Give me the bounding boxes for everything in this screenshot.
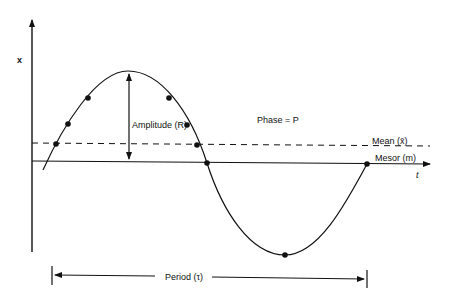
cosinor-diagram: x t Amplitude (R) Phase = P Mean (x̄) Me… xyxy=(0,0,454,305)
period-label: Period (τ) xyxy=(165,272,203,282)
data-point xyxy=(53,141,59,147)
mean-label: Mean (x̄) xyxy=(372,136,408,146)
phase-label: Phase = P xyxy=(257,115,299,125)
data-point xyxy=(194,142,200,148)
y-axis-label: x xyxy=(17,55,22,65)
data-point xyxy=(85,95,91,101)
mean-line xyxy=(32,143,430,146)
data-point xyxy=(65,121,71,127)
amplitude-label: Amplitude (R) xyxy=(132,120,187,130)
data-point xyxy=(282,252,288,258)
data-point xyxy=(364,161,370,167)
x-axis-label: t xyxy=(416,170,419,180)
data-point xyxy=(204,160,210,166)
mesor-line xyxy=(32,161,430,164)
mesor-label: Mesor (m) xyxy=(375,153,416,163)
period-dimension xyxy=(52,266,367,288)
data-point xyxy=(166,95,172,101)
